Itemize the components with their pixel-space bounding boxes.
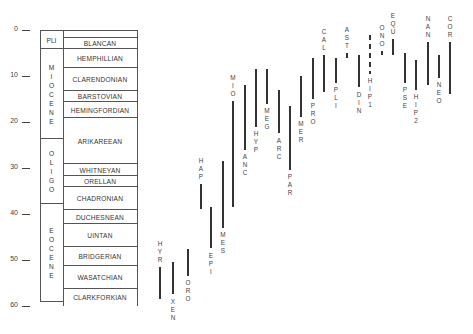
y-tick-mark [22, 260, 30, 261]
stage-top-border [63, 30, 137, 31]
taxon-range-bar [200, 184, 202, 209]
taxon-label: ARC [275, 137, 283, 161]
taxon-label: PAR [286, 173, 294, 197]
taxon-label: HIP1 [366, 77, 374, 109]
taxon-label: ORO [184, 279, 192, 303]
taxon-label: XEN [169, 298, 177, 322]
epoch-cell: OLIGO [40, 138, 63, 203]
y-tick-label: 0 [2, 25, 18, 32]
epoch-label: EOCENE [49, 226, 54, 280]
taxon-label: PSE [401, 86, 409, 110]
y-tick-label: 30 [2, 163, 18, 170]
y-tick-label: 40 [2, 209, 18, 216]
taxon-range-bar [222, 161, 224, 228]
taxon-range-bar [369, 62, 371, 67]
taxon-label: ONO [378, 24, 386, 48]
table-right-border [137, 30, 138, 306]
taxon-range-bar [392, 39, 394, 55]
taxon-range-bar [427, 42, 429, 86]
taxon-label: HYP [252, 130, 260, 154]
y-tick-mark [22, 30, 30, 31]
taxon-range-bar [335, 58, 337, 83]
taxon-label: DIN [355, 91, 363, 115]
taxon-range-bar [266, 69, 268, 104]
stage-cell: WASATCHIAN [63, 265, 137, 289]
taxon-range-bar [172, 262, 174, 294]
taxon-label: HIP2 [412, 93, 420, 125]
taxon-range-bar [449, 42, 451, 95]
taxon-range-bar [369, 35, 371, 40]
epoch-cell: MIOCENE [40, 48, 63, 139]
taxon-range-bar [381, 51, 383, 56]
y-tick-label: 10 [2, 71, 18, 78]
taxon-label: MIO [229, 74, 237, 98]
taxon-label: HYR [156, 240, 164, 264]
taxon-label: MEG [263, 107, 271, 131]
taxon-range-bar [210, 207, 212, 248]
taxon-label: PLI [332, 86, 340, 110]
epoch-label: OLIGO [49, 149, 54, 194]
epoch-cell: PLI [40, 30, 63, 49]
taxon-range-bar [278, 90, 280, 134]
taxon-range-bar [369, 44, 371, 49]
stage-cell: DUCHESNEAN [63, 209, 137, 224]
taxon-range-bar [358, 55, 360, 87]
taxon-label: MER [297, 120, 305, 144]
taxon-range-bar [312, 58, 314, 99]
y-tick-mark [22, 306, 30, 307]
taxon-range-bar [369, 71, 371, 74]
y-tick-mark [22, 122, 30, 123]
y-tick-mark [22, 76, 30, 77]
stage-cell: CLARKFORKIAN [63, 288, 137, 307]
taxon-label: EQU [389, 12, 397, 36]
taxon-range-bar [404, 53, 406, 83]
stage-cell: HEMPHILLIAN [63, 48, 137, 67]
taxon-range-bar [232, 101, 234, 207]
taxon-range-bar [323, 55, 325, 92]
epoch-cell: EOCENE [40, 203, 63, 303]
y-tick-mark [22, 168, 30, 169]
y-tick-label: 50 [2, 255, 18, 262]
taxon-label: ANC [241, 153, 249, 177]
taxon-label: PRO [309, 102, 317, 126]
taxon-label: COR [446, 15, 454, 39]
taxon-label: EPI [207, 252, 215, 276]
taxon-label: CAL [320, 28, 328, 52]
taxon-label: HAP [197, 157, 205, 181]
stage-cell: BRIDGERIAN [63, 246, 137, 265]
taxon-range-bar [415, 60, 417, 90]
stage-cell: HEMINGFORDIAN [63, 101, 137, 118]
stage-cell: CLARENDONIAN [63, 67, 137, 91]
taxon-range-bar [187, 249, 189, 277]
epoch-bottom-border [40, 301, 63, 302]
chart: 0102030405060PLIMIOCENEOLIGOEOCENEBLANCA… [0, 0, 473, 334]
stage-cell: UINTAN [63, 223, 137, 247]
taxon-range-bar [369, 53, 371, 58]
taxon-range-bar [255, 69, 257, 127]
taxon-range-bar [438, 55, 440, 78]
taxon-range-bar [289, 106, 291, 170]
taxon-range-bar [300, 76, 302, 117]
taxon-range-bar [159, 267, 161, 299]
taxon-label: NAN [424, 15, 432, 39]
y-tick-mark [22, 214, 30, 215]
epoch-label: MIOCENE [49, 63, 55, 126]
taxon-label: NEO [435, 81, 443, 105]
y-tick-label: 20 [2, 117, 18, 124]
taxon-range-bar [346, 53, 348, 58]
taxon-label: AST [343, 26, 351, 50]
epoch-label: PLI [47, 36, 57, 45]
taxon-label: MES [219, 231, 227, 255]
y-tick-label: 60 [2, 301, 18, 308]
stage-cell: CHADRONIAN [63, 186, 137, 210]
stage-cell: ARIKAREEAN [63, 117, 137, 164]
taxon-range-bar [244, 85, 246, 149]
